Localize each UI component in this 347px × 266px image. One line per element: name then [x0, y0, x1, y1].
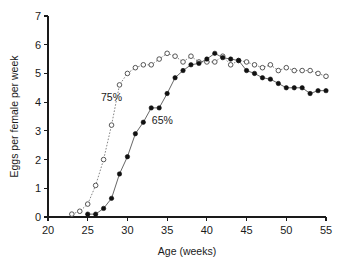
data-point-75pct — [292, 68, 297, 73]
y-tick-label: 5 — [35, 67, 41, 79]
data-point-65pct — [149, 106, 153, 110]
data-point-75pct — [252, 63, 257, 68]
series-annotation-65pct: 65% — [152, 114, 173, 126]
data-point-65pct — [252, 71, 256, 75]
data-point-65pct — [276, 81, 280, 85]
data-point-75pct — [300, 68, 305, 73]
data-point-75pct — [268, 63, 273, 68]
series-annotations-group: 75%65% — [101, 91, 173, 126]
data-point-65pct — [324, 88, 328, 92]
x-tick-label: 20 — [42, 224, 54, 236]
data-point-65pct — [300, 86, 304, 90]
axes-group — [48, 16, 326, 217]
axis-lines — [48, 16, 326, 217]
data-point-65pct — [316, 88, 320, 92]
data-point-75pct — [77, 209, 82, 214]
data-point-65pct — [292, 86, 296, 90]
data-point-65pct — [141, 120, 145, 124]
data-point-65pct — [86, 212, 90, 216]
data-point-75pct — [213, 60, 218, 65]
data-point-75pct — [308, 68, 313, 73]
data-point-65pct — [165, 91, 169, 95]
x-tick-label: 50 — [280, 224, 292, 236]
data-point-65pct — [133, 132, 137, 136]
data-point-75pct — [101, 157, 106, 162]
x-tick-label: 55 — [320, 224, 332, 236]
data-point-65pct — [101, 206, 105, 210]
y-tick-label: 7 — [35, 10, 41, 22]
data-point-65pct — [173, 76, 177, 80]
data-point-75pct — [85, 202, 90, 207]
x-tick-label: 40 — [201, 224, 213, 236]
y-tick-label: 4 — [35, 96, 41, 108]
y-axis-title: Eggs per female per week — [8, 55, 20, 178]
y-tick-label: 3 — [35, 125, 41, 137]
data-point-65pct — [260, 76, 264, 80]
y-tick-label: 0 — [35, 211, 41, 223]
data-point-65pct — [117, 172, 121, 176]
y-tick-label: 1 — [35, 182, 41, 194]
data-point-65pct — [244, 68, 248, 72]
series-lines-group — [72, 53, 326, 214]
x-axis-title: Age (weeks) — [158, 245, 216, 257]
data-point-65pct — [157, 106, 161, 110]
series-annotation-75pct: 75% — [101, 91, 122, 103]
data-point-65pct — [109, 196, 113, 200]
data-point-75pct — [189, 54, 194, 59]
data-point-75pct — [109, 123, 114, 128]
data-point-75pct — [173, 54, 178, 59]
x-tick-label: 30 — [121, 224, 133, 236]
data-point-75pct — [141, 63, 146, 68]
data-point-75pct — [260, 65, 265, 70]
data-point-65pct — [236, 58, 240, 62]
data-point-65pct — [189, 63, 193, 67]
data-point-75pct — [93, 183, 98, 188]
x-tick-label: 45 — [240, 224, 252, 236]
data-point-75pct — [228, 63, 233, 68]
chart-figure: 01234567 2025303540455055 75%65% Age (we… — [0, 0, 347, 266]
data-point-75pct — [244, 60, 249, 65]
data-point-65pct — [268, 77, 272, 81]
data-point-75pct — [181, 60, 186, 65]
data-point-75pct — [165, 51, 170, 56]
data-point-65pct — [93, 212, 97, 216]
data-point-75pct — [133, 65, 138, 70]
x-tick-label: 35 — [161, 224, 173, 236]
data-point-75pct — [324, 74, 329, 79]
series-line-65pct — [88, 53, 326, 214]
x-tick-label: 25 — [82, 224, 94, 236]
data-point-65pct — [221, 55, 225, 59]
x-tick-group: 2025303540455055 — [42, 217, 332, 236]
y-tick-group: 01234567 — [35, 10, 48, 223]
data-point-75pct — [70, 212, 75, 217]
data-point-65pct — [213, 51, 217, 55]
egg-production-line-chart: 01234567 2025303540455055 75%65% Age (we… — [0, 0, 347, 266]
y-tick-label: 6 — [35, 39, 41, 51]
series-line-75pct — [72, 53, 326, 214]
data-point-75pct — [276, 68, 281, 73]
data-point-65pct — [181, 68, 185, 72]
data-point-75pct — [149, 63, 154, 68]
data-point-75pct — [125, 71, 130, 76]
data-point-75pct — [157, 57, 162, 62]
data-point-65pct — [308, 91, 312, 95]
y-tick-label: 2 — [35, 154, 41, 166]
data-point-65pct — [284, 86, 288, 90]
data-point-75pct — [316, 71, 321, 76]
data-point-65pct — [228, 57, 232, 61]
data-point-65pct — [197, 61, 201, 65]
data-point-75pct — [284, 65, 289, 70]
data-point-75pct — [117, 83, 122, 88]
series-markers-group — [70, 51, 329, 216]
data-point-65pct — [125, 155, 129, 159]
data-point-65pct — [205, 57, 209, 61]
